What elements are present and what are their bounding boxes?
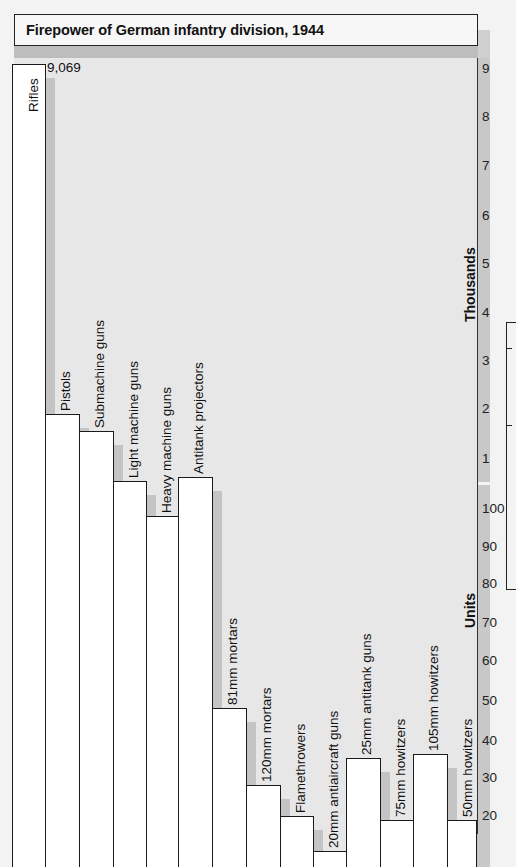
- y-tick-units: 40: [482, 733, 497, 748]
- bar-flamethrowers: [280, 816, 314, 867]
- bar-81mm-mortars: [212, 708, 247, 867]
- bar-label: 20mm antiaircraft guns: [326, 710, 341, 847]
- bar-label: Submachine guns: [92, 320, 107, 428]
- y-axis-title-thousands: Thousands: [462, 247, 478, 322]
- bar-20mm-antiaircraft-guns: [313, 851, 347, 867]
- y-tick-thousands: 3: [482, 353, 490, 368]
- y-tick-units: 30: [482, 770, 497, 785]
- bar-50mm-howitzers: [447, 820, 477, 867]
- y-axis-break: [478, 482, 490, 485]
- y-tick-thousands: 7: [482, 158, 490, 173]
- bar-105mm-howitzers: [413, 754, 448, 867]
- plot-area: Rifles9,069PistolsSubmachine gunsLight m…: [14, 58, 478, 867]
- bar-label: 120mm mortars: [259, 688, 274, 783]
- bar-label: 81mm mortars: [225, 618, 240, 705]
- bar-label: 75mm howitzers: [393, 719, 408, 817]
- y-tick-units: 100: [482, 501, 505, 516]
- y-tick-thousands: 1: [482, 451, 490, 466]
- bar-label: 25mm antitank guns: [359, 634, 374, 756]
- bar-label: 50mm howitzers: [460, 719, 475, 817]
- y-tick-units: 20: [482, 808, 497, 823]
- bar-pistols: [45, 414, 80, 867]
- y-tick-thousands: 6: [482, 208, 490, 223]
- bar-label: Rifles: [26, 78, 41, 112]
- y-tick-thousands: 2: [482, 401, 490, 416]
- y-tick-thousands: 8: [482, 109, 490, 124]
- adjacent-panel-fragment: [506, 322, 516, 590]
- bar-75mm-howitzers: [380, 820, 414, 867]
- y-axis-title-units: Units: [462, 593, 478, 628]
- bar-heavy-machine-guns: [146, 516, 179, 867]
- adjacent-panel-line: [506, 425, 512, 426]
- bar-label: Light machine guns: [126, 361, 141, 478]
- chart-title-box: Firepower of German infantry division, 1…: [14, 14, 478, 46]
- y-tick-units: 90: [482, 539, 497, 554]
- y-tick-units: 70: [482, 615, 497, 630]
- adjacent-panel-line: [506, 348, 512, 349]
- rifles-value-label: 9,069: [47, 60, 81, 75]
- bar-submachine-guns: [79, 431, 114, 867]
- y-tick-units: 50: [482, 693, 497, 708]
- bar-120mm-mortars: [246, 785, 281, 867]
- y-tick-thousands: 4: [482, 305, 490, 320]
- bar-25mm-antitank-guns: [346, 758, 381, 867]
- chart-title: Firepower of German infantry division, 1…: [26, 22, 324, 38]
- bar-label: 105mm howitzers: [426, 646, 441, 752]
- y-tick-units: 60: [482, 653, 497, 668]
- bar-label: Pistols: [58, 371, 73, 411]
- y-tick-thousands: 9: [482, 61, 490, 76]
- y-tick-units: 80: [482, 576, 497, 591]
- bar-label: Flamethrowers: [293, 724, 308, 813]
- bar-label: Antitank projectors: [191, 362, 206, 474]
- y-tick-thousands: 5: [482, 256, 490, 271]
- bar-light-machine-guns: [113, 481, 147, 867]
- bar-antitank-projectors: [178, 477, 213, 867]
- bar-rifles: [12, 64, 46, 867]
- bar-label: Heavy machine guns: [159, 387, 174, 513]
